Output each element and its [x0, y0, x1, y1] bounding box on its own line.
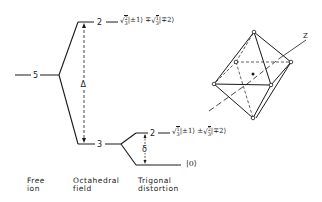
edge-bottom-front — [253, 85, 271, 118]
delta-arrow-head-up — [82, 23, 86, 28]
edge-equator-right — [271, 62, 291, 85]
delta-symbol: Δ — [81, 80, 87, 89]
edge-top-right — [254, 32, 291, 62]
equation-trigonal-doublet: √13|±1⟩ ±√23|∓2⟩ — [172, 126, 226, 137]
vertex-bottom — [251, 116, 255, 120]
free-ion-degeneracy: 5 — [33, 71, 38, 80]
caption-octahedral-line2: field — [73, 185, 119, 193]
edge-top-left — [214, 32, 254, 84]
edge-bottom-right — [256, 62, 291, 118]
caption-octahedral: Octahedral field — [73, 177, 119, 193]
z-axis-back — [209, 84, 247, 111]
energy-level-diagram: 5 2 3 Δ 2 δ — [0, 0, 322, 202]
equation-trigonal-singlet: |0⟩ — [186, 159, 197, 168]
back-edge-to-top — [236, 32, 254, 62]
trigonal-split-up — [121, 133, 136, 144]
delta-arrow-head-down — [82, 138, 86, 143]
octahedron-figure — [209, 30, 306, 120]
edge-top-front — [254, 32, 271, 85]
ket2: |∓2⟩ — [159, 16, 174, 24]
vertex-right — [289, 60, 293, 64]
trigonal-split-down — [121, 144, 136, 165]
edge-equator-front — [214, 84, 271, 85]
central-ion — [252, 73, 255, 76]
trigonal-arrow-head-up — [144, 134, 147, 138]
caption-free-ion: Free ion — [27, 177, 45, 193]
caption-trigonal-line2: distortion — [138, 185, 179, 193]
octahedral-upper-degeneracy: 2 — [97, 18, 102, 27]
vertex-back-left — [234, 60, 238, 64]
caption-trigonal: Trigonal distortion — [138, 177, 179, 193]
ket1: |±1⟩ — [128, 16, 143, 24]
split-line-down — [59, 75, 78, 144]
trigonal-splitting-symbol: δ — [142, 145, 147, 154]
back-edge-to-left — [214, 62, 236, 84]
vertex-front — [269, 83, 273, 87]
caption-free-ion-line2: ion — [27, 185, 45, 193]
vertex-top — [252, 30, 256, 34]
octahedral-lower-degeneracy: 3 — [97, 140, 102, 149]
trigonal-arrow-head-down — [144, 160, 147, 164]
ket1: |±1⟩ — [180, 127, 195, 135]
z-axis-front — [280, 40, 306, 58]
equation-upper-eg: √23|±1⟩ ∓√13|∓2⟩ — [120, 15, 174, 26]
z-axis-label: Z — [303, 32, 308, 40]
edge-bottom-left — [214, 84, 253, 118]
split-line-up — [59, 22, 78, 75]
vertex-left — [212, 82, 216, 86]
ket2: |∓2⟩ — [211, 127, 226, 135]
trigonal-upper-degeneracy: 2 — [150, 129, 155, 138]
